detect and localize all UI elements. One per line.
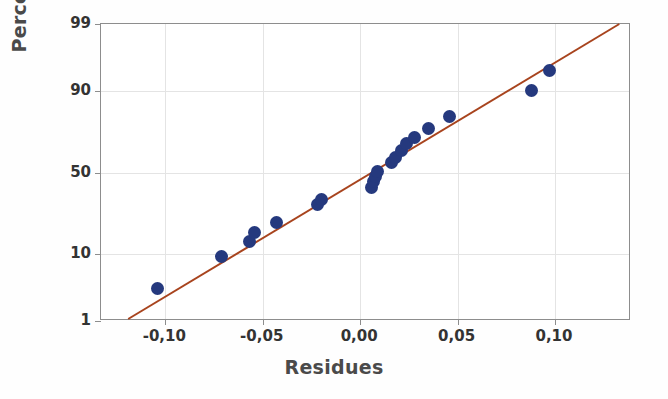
x-tick [165,319,166,325]
normal-probability-plot: Percent Residues 999050101 -0,10-0,050,0… [0,0,668,399]
x-tick [360,319,361,325]
x-tick-label: 0,00 [319,327,399,345]
data-point [315,193,328,206]
x-tick [555,319,556,325]
data-point [543,64,556,77]
x-tick [263,319,264,325]
y-tick-label: 10 [55,244,91,262]
x-axis-title: Residues [0,356,668,378]
y-tick-label: 90 [55,81,91,99]
x-tick-label: 0,05 [417,327,497,345]
data-point [151,282,164,295]
y-tick-label: 50 [55,163,91,181]
y-tick [95,321,101,322]
x-tick-label: -0,05 [222,327,302,345]
x-tick-label: -0,10 [124,327,204,345]
data-point [408,131,421,144]
x-tick-label: 0,10 [514,327,594,345]
y-axis-title: Percent [8,0,30,90]
x-tick [458,319,459,325]
data-point [422,122,435,135]
plot-area [100,23,630,320]
y-tick-label: 1 [55,311,91,329]
y-tick-label: 99 [55,14,91,32]
